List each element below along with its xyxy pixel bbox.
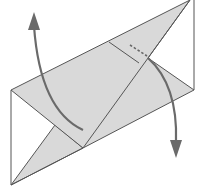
diagram-canvas xyxy=(0,0,199,194)
shaded-parallelogram-flap xyxy=(11,0,194,148)
arrow-head-up-icon xyxy=(28,12,40,30)
origami-diagram xyxy=(0,0,199,194)
arrow-head-down-icon xyxy=(170,140,182,158)
